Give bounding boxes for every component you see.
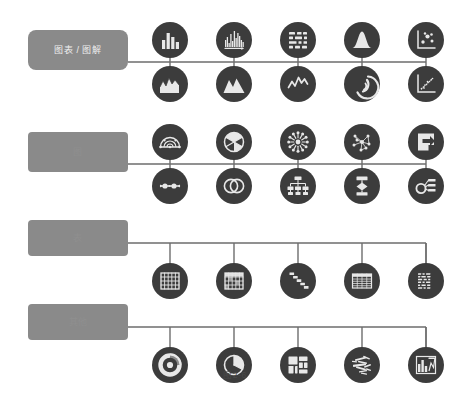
- node-network-graph-icon[interactable]: 网络图: [344, 124, 380, 160]
- classification-diagram: 图表 / 图解柱状图直方图甘特图正态分布图散点图面积图山形面积图折线图弧形图趋势…: [0, 0, 470, 400]
- node-chord-arc-icon[interactable]: 弦图: [152, 124, 188, 160]
- node-pointer-arrow-icon[interactable]: 指示图: [408, 124, 444, 160]
- node-scatter-plot-icon[interactable]: 散点图: [408, 22, 444, 58]
- figure-caption: 图2-6: [0, 368, 470, 380]
- node-mountain-area-icon[interactable]: 山形面积图: [216, 66, 252, 102]
- node-staircase-table-icon[interactable]: 阶梯表: [280, 263, 316, 299]
- node-trend-scatter-icon[interactable]: 趋势散点图: [408, 66, 444, 102]
- node-bell-curve-icon[interactable]: 正态分布图: [344, 22, 380, 58]
- category-box-tables[interactable]: 表: [28, 220, 128, 256]
- node-area-chart-icon[interactable]: 面积图: [152, 66, 188, 102]
- category-label-charts-diagrams: 图表 / 图解: [54, 44, 101, 55]
- node-histogram-icon[interactable]: 直方图: [216, 22, 252, 58]
- figure-canvas: 图表 / 图解柱状图直方图甘特图正态分布图散点图面积图山形面积图折线图弧形图趋势…: [0, 0, 470, 400]
- node-bar-chart-icon[interactable]: 柱状图: [152, 22, 188, 58]
- node-radial-burst-icon[interactable]: 放射图: [280, 124, 316, 160]
- category-box-charts-diagrams[interactable]: 图表 / 图解: [28, 30, 128, 70]
- node-org-chart-icon[interactable]: 组织结构图: [280, 168, 316, 204]
- node-arc-gauge-icon[interactable]: 弧形图: [344, 66, 380, 102]
- category-label-graphs: 图: [73, 147, 83, 157]
- node-line-chart-icon[interactable]: 折线图: [280, 66, 316, 102]
- node-highlight-table-icon[interactable]: 高亮表: [216, 263, 252, 299]
- node-concept-map-icon[interactable]: 概念图: [408, 168, 444, 204]
- node-grid-table-icon[interactable]: 网格表: [152, 263, 188, 299]
- node-timeline-icon[interactable]: 时间轴: [152, 168, 188, 204]
- node-venn-diagram-icon[interactable]: 维恩图: [216, 168, 252, 204]
- node-gantt-chart-icon[interactable]: 甘特图: [280, 22, 316, 58]
- flowchart-icon: [357, 177, 368, 196]
- category-label-tables: 表: [73, 232, 83, 243]
- node-flowchart-icon[interactable]: 流程图: [344, 168, 380, 204]
- connector-group-others: [128, 327, 426, 348]
- category-label-others: 其他: [69, 316, 88, 327]
- node-spreadsheet-icon[interactable]: 电子表格: [344, 263, 380, 299]
- connector-group-tables: [128, 243, 426, 264]
- spreadsheet-icon: [353, 274, 372, 288]
- category-box-graphs[interactable]: 图: [28, 132, 128, 172]
- category-box-others[interactable]: 其他: [28, 304, 128, 340]
- node-data-matrix-icon[interactable]: 数据矩阵: [408, 263, 444, 299]
- node-radial-pie-icon[interactable]: 放射饼图: [216, 124, 252, 160]
